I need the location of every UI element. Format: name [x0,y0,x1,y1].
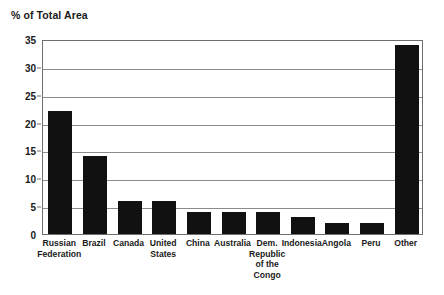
bar [395,45,419,234]
y-tick-mark [37,123,41,124]
y-tick-mark [37,67,41,68]
x-tick-label-line: Congo [245,270,290,281]
bar [291,217,315,234]
y-tick-label: 35 [25,35,36,46]
y-tick-mark [37,207,41,208]
bar [118,201,142,234]
y-tick-mark [37,179,41,180]
bar [222,212,246,234]
x-tick-label-line: Federation [37,249,82,260]
bar [360,223,384,234]
bar [187,212,211,234]
x-tick-label-line: Republic [245,249,290,260]
y-tick-label: 25 [25,90,36,101]
y-tick-label: 10 [25,174,36,185]
y-tick-mark [37,151,41,152]
bar [325,223,349,234]
y-axis: 05101520253035 [0,40,36,235]
x-axis: RussianFederationBrazilCanadaUnitedState… [42,238,423,294]
bar [256,212,280,234]
y-tick-mark [37,95,41,96]
bar [48,111,72,234]
x-tick-label: Other [383,238,428,249]
y-tick-label: 15 [25,146,36,157]
x-tick-label-line: Other [383,238,428,249]
bar [83,156,107,234]
bars-group [43,41,422,234]
y-tick-label: 20 [25,118,36,129]
y-tick-label: 0 [30,230,36,241]
x-tick-label-line: of the [245,259,290,270]
y-tick-label: 5 [30,202,36,213]
x-tick-label-line: States [141,249,186,260]
bar [152,201,176,234]
chart-title: % of Total Area [11,9,88,21]
bar-chart: % of Total Area 05101520253035 RussianFe… [0,0,444,295]
y-tick-label: 30 [25,62,36,73]
plot-area [42,40,423,235]
